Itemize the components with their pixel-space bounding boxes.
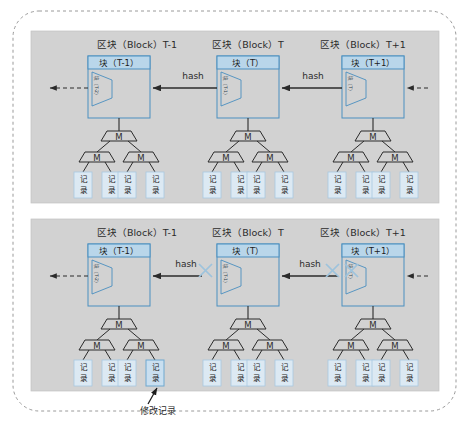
blockchain-tamper-diagram: 区块（Block）T-1 区块（Block）T 区块（Block）T+1 块（T… bbox=[0, 0, 469, 424]
record-label-top: 记 bbox=[281, 363, 289, 372]
merkle-root-label: M bbox=[369, 132, 376, 142]
record-label-top: 记 bbox=[253, 175, 261, 184]
block-card[interactable]: 块（T-1） 块（T-2） bbox=[88, 244, 150, 306]
record-label-top: 记 bbox=[124, 363, 132, 372]
record-label-top: 记 bbox=[378, 363, 386, 372]
merkle-child-label: M bbox=[391, 341, 398, 351]
merkle-child-node: M bbox=[79, 340, 115, 351]
record-label-bottom: 录 bbox=[334, 186, 342, 195]
merkle-child-node: M bbox=[252, 340, 288, 351]
record-group: 记 录 记 录 记 录 记 录 bbox=[203, 172, 293, 198]
merkle-child-label: M bbox=[391, 153, 398, 163]
record-label-top: 记 bbox=[80, 363, 88, 372]
record-label-bottom: 录 bbox=[237, 374, 245, 383]
record-label-top: 记 bbox=[209, 175, 217, 184]
merkle-child-node: M bbox=[333, 340, 369, 351]
record-label-top: 记 bbox=[108, 363, 116, 372]
record-label-top: 记 bbox=[334, 175, 342, 184]
merkle-root-node: M bbox=[101, 319, 137, 330]
record-group: 记 录 记 录 记 录 记 录 bbox=[203, 360, 293, 386]
record-label-top: 记 bbox=[152, 363, 160, 372]
record-group: 记 录 记 录 记 录 记 录 bbox=[328, 360, 418, 386]
block-header-label: 块（T） bbox=[232, 246, 264, 256]
block-title: 区块（Block）T bbox=[212, 39, 284, 50]
record-label-top: 记 bbox=[406, 175, 414, 184]
block-card[interactable]: 块（T+1） 块（T） bbox=[342, 56, 404, 118]
prev-hash-label: 块（T-1） bbox=[222, 264, 229, 286]
merkle-child-label: M bbox=[347, 341, 354, 351]
merkle-child-label: M bbox=[266, 153, 273, 163]
record-label-bottom: 录 bbox=[80, 374, 88, 383]
record-label-bottom: 录 bbox=[253, 186, 261, 195]
merkle-child-node: M bbox=[79, 152, 115, 163]
block-card[interactable]: 块（T） 块（T-1） bbox=[217, 244, 279, 306]
merkle-child-label: M bbox=[266, 341, 273, 351]
merkle-root-label: M bbox=[369, 320, 376, 330]
record-label-top: 记 bbox=[152, 175, 160, 184]
record-label-bottom: 录 bbox=[406, 186, 414, 195]
merkle-root-node: M bbox=[355, 131, 391, 142]
record-label-bottom: 录 bbox=[124, 186, 132, 195]
block-header-label: 块（T-1） bbox=[99, 246, 139, 256]
block-header-label: 块（T+1） bbox=[351, 58, 396, 68]
record-label-bottom: 录 bbox=[281, 374, 289, 383]
record-label-top: 记 bbox=[108, 175, 116, 184]
record-label-top: 记 bbox=[378, 175, 386, 184]
merkle-child-label: M bbox=[93, 153, 100, 163]
merkle-child-label: M bbox=[93, 341, 100, 351]
block-card[interactable]: 块（T-1） 块（T-2） bbox=[88, 56, 150, 118]
record-label-bottom: 录 bbox=[108, 374, 116, 383]
merkle-root-node: M bbox=[230, 319, 266, 330]
record-label-bottom: 录 bbox=[378, 374, 386, 383]
record-label-bottom: 录 bbox=[253, 374, 261, 383]
hash-link-label: hash bbox=[302, 71, 324, 81]
merkle-root-node: M bbox=[101, 131, 137, 142]
record-label-top: 记 bbox=[281, 175, 289, 184]
merkle-child-node: M bbox=[208, 152, 244, 163]
record-label-bottom: 录 bbox=[334, 374, 342, 383]
record-label-bottom: 录 bbox=[362, 374, 370, 383]
bottom-panel: 区块（Block）T-1 区块（Block）T 区块（Block）T+1 块（T… bbox=[31, 219, 439, 391]
prev-hash-label: 块（T-2） bbox=[93, 264, 100, 286]
merkle-child-label: M bbox=[347, 153, 354, 163]
record-label-bottom: 录 bbox=[209, 186, 217, 195]
merkle-child-label: M bbox=[222, 153, 229, 163]
block-header-label: 块（T-1） bbox=[99, 58, 139, 68]
record-label-bottom: 录 bbox=[80, 186, 88, 195]
block-card[interactable]: 块（T+1） 块（T） bbox=[342, 244, 404, 306]
block-title: 区块（Block）T-1 bbox=[97, 227, 177, 238]
block-title: 区块（Block）T-1 bbox=[97, 39, 177, 50]
record-label-bottom: 录 bbox=[152, 374, 160, 383]
record-label-bottom: 录 bbox=[237, 186, 245, 195]
block-card[interactable]: 块（T） 块（T-1） bbox=[217, 56, 279, 118]
prev-hash-label: 块（T-1） bbox=[222, 76, 229, 98]
merkle-root-label: M bbox=[244, 132, 251, 142]
merkle-child-node: M bbox=[208, 340, 244, 351]
merkle-child-node: M bbox=[377, 340, 413, 351]
top-panel: 区块（Block）T-1 区块（Block）T 区块（Block）T+1 块（T… bbox=[31, 31, 439, 203]
record-label-bottom: 录 bbox=[124, 374, 132, 383]
record-group: 记 录 记 录 记 录 记 录 bbox=[328, 172, 418, 198]
record-label-top: 记 bbox=[124, 175, 132, 184]
prev-hash-label: 块（T-2） bbox=[93, 76, 100, 98]
merkle-root-label: M bbox=[115, 320, 122, 330]
hash-link-label: hash bbox=[175, 259, 197, 269]
record-label-bottom: 录 bbox=[108, 186, 116, 195]
record-label-bottom: 录 bbox=[209, 374, 217, 383]
record-label-top: 记 bbox=[80, 175, 88, 184]
block-header-label: 块（T） bbox=[232, 58, 264, 68]
record-group: 记 录 记 录 记 录 记 录 bbox=[74, 172, 164, 198]
block-header-label: 块（T+1） bbox=[351, 246, 396, 256]
hash-link-label: hash bbox=[182, 71, 204, 81]
record-group: 记 录 记 录 记 录 记 录 bbox=[74, 360, 164, 386]
merkle-child-label: M bbox=[137, 341, 144, 351]
merkle-child-node: M bbox=[252, 152, 288, 163]
block-title: 区块（Block）T+1 bbox=[320, 39, 406, 50]
record-label-top: 记 bbox=[362, 175, 370, 184]
record-label-top: 记 bbox=[406, 363, 414, 372]
merkle-child-node: M bbox=[123, 340, 159, 351]
record-label-top: 记 bbox=[253, 363, 261, 372]
block-title: 区块（Block）T bbox=[212, 227, 284, 238]
record-label-bottom: 录 bbox=[378, 186, 386, 195]
record-label-top: 记 bbox=[237, 175, 245, 184]
